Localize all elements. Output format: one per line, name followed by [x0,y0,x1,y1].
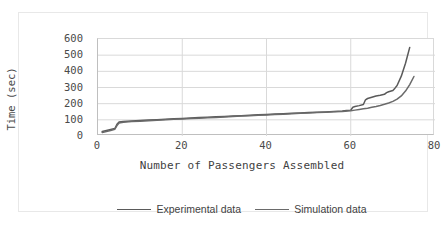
x-tick-label: 0 [77,139,117,152]
y-axis-tick-labels: 0100200300400500600 [47,32,83,142]
y-tick-label: 200 [47,97,83,109]
y-tick-label: 600 [47,32,83,44]
legend-label: Experimental data [156,203,241,215]
legend-item[interactable]: Simulation data [255,203,366,215]
x-tick-label: 20 [161,139,201,152]
series-line-2 [102,77,414,133]
plot-area [97,38,434,135]
y-tick-label: 300 [47,81,83,93]
legend-label: Simulation data [294,203,366,215]
legend-line-icon [117,209,151,210]
y-axis-title: Time (sec) [5,39,17,159]
y-tick-label: 100 [47,113,83,125]
series-line-1 [102,47,410,131]
plot-svg [98,39,435,136]
legend-item[interactable]: Experimental data [117,203,241,215]
y-tick-label: 400 [47,64,83,76]
x-axis-tick-labels: 020406080 [97,139,434,153]
y-tick-label: 500 [47,48,83,60]
figure-frame: Time (sec) 0100200300400500600 020406080… [18,12,428,212]
x-tick-label: 40 [246,139,286,152]
chart-figure: Time (sec) 0100200300400500600 020406080… [0,0,444,228]
x-tick-label: 80 [414,139,444,152]
chart-legend: Experimental dataSimulation data [37,201,444,217]
x-axis-title: Number of Passengers Assembled [37,159,444,172]
x-tick-label: 60 [330,139,370,152]
legend-line-icon [255,209,289,210]
